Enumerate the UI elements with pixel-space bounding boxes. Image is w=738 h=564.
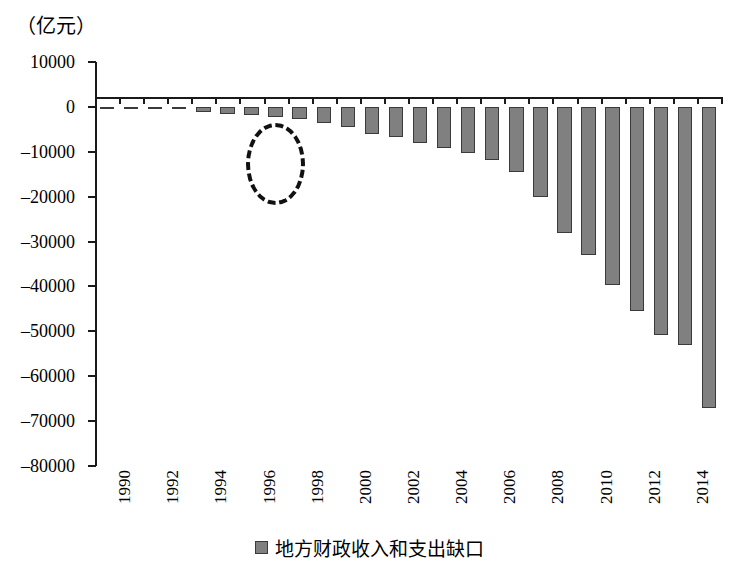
x-axis-tick bbox=[384, 97, 386, 104]
x-axis-tick bbox=[264, 97, 266, 104]
bar bbox=[244, 107, 258, 115]
annotation-ellipse-icon bbox=[246, 123, 305, 205]
x-axis-tick-label: 1994 bbox=[211, 470, 231, 504]
bar bbox=[533, 107, 547, 197]
x-axis-tick bbox=[601, 97, 603, 104]
y-axis-tick-label: 0 bbox=[66, 96, 86, 117]
x-axis-tick-label: 2006 bbox=[500, 470, 520, 504]
bar bbox=[605, 107, 619, 285]
bar bbox=[172, 107, 186, 109]
x-axis-tick bbox=[528, 97, 530, 104]
y-axis-tick-labels: 100000–10000–20000–30000–40000–50000–600… bbox=[0, 62, 86, 466]
bar bbox=[124, 107, 138, 109]
x-axis-tick-label: 1996 bbox=[260, 470, 280, 504]
bar bbox=[100, 107, 114, 109]
x-axis-tick bbox=[336, 97, 338, 104]
bar bbox=[702, 107, 716, 408]
bar-chart: （亿元） 100000–10000–20000–30000–40000–5000… bbox=[0, 0, 738, 564]
x-axis-tick bbox=[360, 97, 362, 104]
bar bbox=[485, 107, 499, 160]
bar bbox=[317, 107, 331, 123]
y-axis-unit-label: （亿元） bbox=[16, 10, 96, 39]
x-axis-tick-label: 2004 bbox=[452, 470, 472, 504]
x-axis-tick bbox=[215, 97, 217, 104]
y-axis-tick-label: –70000 bbox=[21, 411, 86, 432]
x-axis-tick bbox=[673, 97, 675, 104]
bar bbox=[581, 107, 595, 255]
x-axis-tick bbox=[552, 97, 554, 104]
legend-swatch-icon bbox=[255, 541, 268, 554]
y-axis-tick bbox=[88, 465, 96, 467]
x-axis-tick-label: 2014 bbox=[693, 470, 713, 504]
x-axis-tick-labels: 1990199219941996199820002002200420062008… bbox=[95, 470, 721, 530]
x-axis-tick-label: 2002 bbox=[404, 470, 424, 504]
legend-label: 地方财政收入和支出缺口 bbox=[275, 534, 484, 561]
x-axis-tick-label: 1998 bbox=[308, 470, 328, 504]
y-axis-tick bbox=[88, 106, 96, 108]
bar bbox=[654, 107, 668, 335]
x-axis-tick bbox=[191, 97, 193, 104]
x-axis-tick bbox=[432, 97, 434, 104]
bar bbox=[292, 107, 306, 120]
x-axis-tick-label: 2012 bbox=[645, 470, 665, 504]
x-axis-tick bbox=[504, 97, 506, 104]
bar bbox=[148, 107, 162, 109]
x-axis-tick bbox=[167, 97, 169, 104]
bar bbox=[196, 107, 210, 112]
bar bbox=[557, 107, 571, 234]
x-axis-tick bbox=[721, 97, 723, 104]
bar bbox=[509, 107, 523, 173]
bar bbox=[268, 107, 282, 117]
y-axis-tick-label: –20000 bbox=[21, 186, 86, 207]
y-axis-tick bbox=[88, 196, 96, 198]
x-axis-tick-label: 2010 bbox=[597, 470, 617, 504]
y-axis-tick bbox=[88, 375, 96, 377]
x-axis-tick-label: 1990 bbox=[115, 470, 135, 504]
y-axis-tick bbox=[88, 151, 96, 153]
x-axis-tick bbox=[649, 97, 651, 104]
legend: 地方财政收入和支出缺口 bbox=[0, 534, 738, 561]
x-axis-tick-label: 2000 bbox=[356, 470, 376, 504]
bar bbox=[341, 107, 355, 127]
x-axis-tick bbox=[95, 97, 97, 104]
y-axis-tick bbox=[88, 420, 96, 422]
bar bbox=[220, 107, 234, 114]
bar bbox=[630, 107, 644, 311]
x-axis-tick bbox=[480, 97, 482, 104]
y-axis-tick bbox=[88, 330, 96, 332]
bar bbox=[389, 107, 403, 138]
bar bbox=[437, 107, 451, 148]
plot-area bbox=[95, 62, 721, 466]
x-axis-tick bbox=[288, 97, 290, 104]
y-axis-tick-label: –10000 bbox=[21, 141, 86, 162]
x-axis-tick bbox=[143, 97, 145, 104]
y-axis-tick-label: –40000 bbox=[21, 276, 86, 297]
x-axis-tick-label: 1992 bbox=[163, 470, 183, 504]
x-axis-tick bbox=[312, 97, 314, 104]
y-axis-tick-label: –50000 bbox=[21, 321, 86, 342]
x-axis-tick bbox=[119, 97, 121, 104]
y-axis-line bbox=[95, 62, 97, 466]
y-axis-tick bbox=[88, 241, 96, 243]
x-axis-tick-label: 2008 bbox=[548, 470, 568, 504]
x-axis-tick bbox=[408, 97, 410, 104]
x-axis-tick bbox=[456, 97, 458, 104]
bar bbox=[413, 107, 427, 143]
y-axis-tick-label: –80000 bbox=[21, 456, 86, 477]
x-axis-tick bbox=[577, 97, 579, 104]
x-axis-tick bbox=[697, 97, 699, 104]
y-axis-tick bbox=[88, 61, 96, 63]
bar bbox=[678, 107, 692, 345]
y-axis-tick-label: –30000 bbox=[21, 231, 86, 252]
bar bbox=[365, 107, 379, 134]
bar bbox=[461, 107, 475, 153]
x-axis-tick bbox=[625, 97, 627, 104]
y-axis-tick-label: 10000 bbox=[30, 52, 86, 73]
y-axis-tick bbox=[88, 285, 96, 287]
x-axis-tick bbox=[239, 97, 241, 104]
y-axis-tick-label: –60000 bbox=[21, 366, 86, 387]
